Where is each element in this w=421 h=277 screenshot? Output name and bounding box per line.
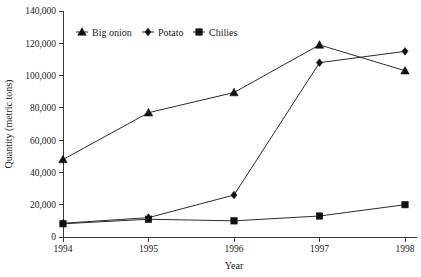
x-axis-tick-label: 1995 xyxy=(139,244,158,254)
x-axis-tick-group: 19941995199619971998 xyxy=(54,237,415,254)
square-marker-icon xyxy=(196,29,202,35)
data-point-marker xyxy=(230,88,238,95)
series-line xyxy=(63,45,405,160)
data-point-marker xyxy=(60,221,66,227)
diamond-marker-icon xyxy=(145,28,151,36)
y-axis-tick-label: 100,000 xyxy=(25,71,56,81)
data-point-marker xyxy=(231,218,237,224)
chart-canvas: 020,00040,00060,00080,000100,000120,0001… xyxy=(0,0,421,277)
x-axis-tick-label: 1998 xyxy=(396,244,415,254)
series-chilies xyxy=(60,202,408,227)
y-axis-tick-label: 0 xyxy=(51,232,56,242)
y-axis-tick-group: 020,00040,00060,00080,000100,000120,0001… xyxy=(25,6,63,242)
data-point-marker xyxy=(315,41,323,48)
y-axis-tick-label: 60,000 xyxy=(30,136,56,146)
y-axis-title: Quantity (metric tons) xyxy=(3,80,15,169)
data-point-marker xyxy=(402,202,408,208)
x-axis-tick-label: 1996 xyxy=(225,244,244,254)
y-axis-tick-label: 80,000 xyxy=(30,103,56,113)
data-point-marker xyxy=(402,48,408,56)
line-chart-figure: 020,00040,00060,00080,000100,000120,0001… xyxy=(0,0,421,277)
series-potato xyxy=(60,48,408,228)
series-big-onion xyxy=(59,41,409,163)
data-point-marker xyxy=(316,213,322,219)
y-axis-tick-label: 140,000 xyxy=(25,6,56,16)
data-point-marker xyxy=(59,155,67,162)
x-axis-tick-label: 1994 xyxy=(54,244,73,254)
y-axis-tick-label: 120,000 xyxy=(25,39,56,49)
chart-legend: Big onionPotatoChilies xyxy=(76,27,237,38)
legend-item-label: Big onion xyxy=(92,27,132,38)
series-group xyxy=(59,41,409,227)
data-point-marker xyxy=(145,216,151,222)
x-axis-title: Year xyxy=(225,260,244,271)
legend-item-label: Chilies xyxy=(209,27,237,38)
x-axis-tick-label: 1997 xyxy=(310,244,329,254)
legend-item-label: Potato xyxy=(158,27,184,38)
y-axis-tick-label: 20,000 xyxy=(30,200,56,210)
y-axis-tick-label: 40,000 xyxy=(30,168,56,178)
